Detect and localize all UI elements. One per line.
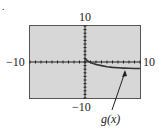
plot-svg [0,0,158,131]
annotation-arrow [112,70,127,110]
y-axis [84,26,87,98]
g-curve [85,59,140,69]
g-annotation-label: g(x) [101,113,120,125]
